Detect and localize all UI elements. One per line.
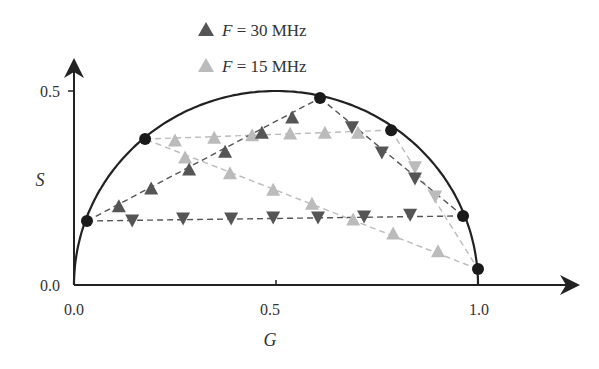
triangle-up-marker	[305, 197, 319, 210]
y-tick-label: 0.0	[40, 277, 60, 294]
triangle-up-marker	[255, 126, 269, 139]
y-tick-label: 0.5	[40, 83, 60, 100]
plot-area	[74, 91, 484, 285]
legend-label: = 15 MHz	[232, 57, 307, 76]
triangle-up-marker	[178, 150, 192, 163]
triangle-down-marker	[408, 173, 422, 186]
triangle-up-marker	[266, 183, 280, 196]
reference-point	[472, 263, 484, 275]
triangle-up-marker	[285, 110, 299, 123]
legend-item-30mhz: F = 30 MHz	[198, 21, 307, 40]
x-tick-label: 0.5	[260, 301, 280, 318]
triangle-up-marker	[223, 166, 237, 179]
triangle-down-marker	[375, 147, 389, 160]
triangle-up-marker	[346, 213, 360, 226]
svg-text:F = 15 MHz: F = 15 MHz	[221, 57, 307, 76]
legend-item-15mhz: F = 15 MHz	[198, 57, 307, 76]
phasor-plot: F = 30 MHz F = 15 MHz 0.0 0.5 1.0 0.0 0.…	[0, 0, 599, 369]
triangle-up-marker	[386, 227, 400, 240]
reference-point	[314, 92, 326, 104]
triangle-up-marker	[283, 126, 297, 139]
triangle-down-marker	[224, 213, 238, 226]
reference-point	[457, 210, 469, 222]
legend: F = 30 MHz F = 15 MHz	[198, 21, 307, 76]
triangle-up-icon	[198, 58, 214, 72]
triangle-up-icon	[198, 22, 214, 36]
legend-label: = 30 MHz	[232, 21, 307, 40]
reference-point	[385, 124, 397, 136]
x-tick-label: 1.0	[469, 301, 489, 318]
triangle-down-marker	[403, 209, 417, 222]
triangle-up-marker	[431, 244, 445, 257]
trajectory-line	[320, 98, 463, 216]
legend-var: F	[221, 57, 233, 76]
triangle-up-marker	[168, 133, 182, 146]
x-axis-label: G	[264, 330, 277, 350]
reference-point	[139, 133, 151, 145]
triangle-down-marker	[408, 161, 422, 174]
triangle-up-marker	[144, 182, 158, 195]
legend-var: F	[221, 21, 233, 40]
x-tick-label: 0.0	[64, 301, 84, 318]
reference-point	[81, 215, 93, 227]
y-axis-label: S	[36, 170, 45, 190]
svg-text:F = 30 MHz: F = 30 MHz	[221, 21, 307, 40]
